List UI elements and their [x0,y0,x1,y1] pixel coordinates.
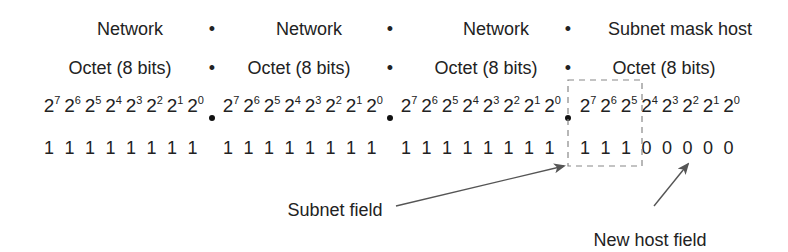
diagram-overlay [0,0,788,252]
subnet-field-label: Subnet field [287,200,382,220]
subnet-field-arrow [396,166,564,206]
new-host-field-label: New host field [593,230,706,250]
subnet-field-dashed-box [568,80,642,166]
new-host-field-arrow [654,164,688,206]
